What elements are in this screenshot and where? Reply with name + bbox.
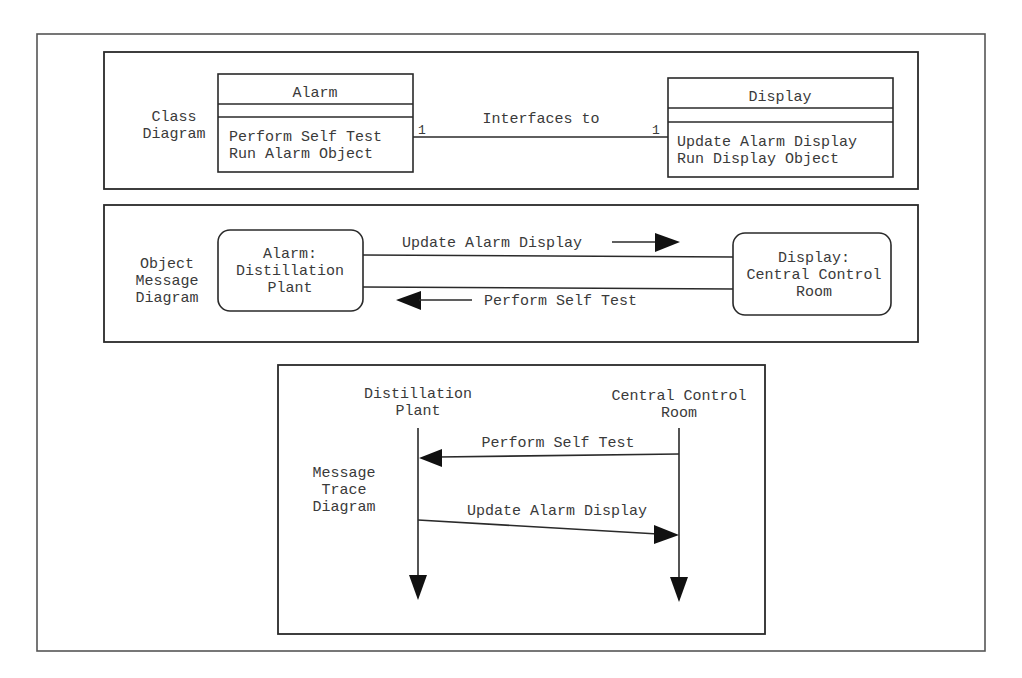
lifeline-header-control-room-line-1: Central Control: [611, 388, 746, 405]
object-box-alarm-line-2: Distillation: [236, 263, 344, 280]
trace-message-label: Update Alarm Display: [467, 503, 647, 520]
object-box-display-line-3: Room: [796, 284, 832, 301]
class-box-display: Display Update Alarm Display Run Display…: [668, 78, 893, 177]
object-message-label-line-3: Diagram: [135, 290, 198, 307]
object-box-display-line-2: Central Control: [746, 267, 881, 284]
class-operation: Run Alarm Object: [229, 146, 373, 163]
object-message-label-line-1: Object: [140, 256, 194, 273]
trace-message-label: Perform Self Test: [481, 435, 634, 452]
message-trace-diagram-panel: Distillation Plant Central Control Room …: [278, 365, 765, 634]
object-message-label: Update Alarm Display: [402, 235, 582, 252]
object-box-alarm-line-1: Alarm:: [263, 246, 317, 263]
object-box-alarm-line-3: Plant: [267, 280, 312, 297]
object-box-alarm: Alarm: Distillation Plant: [218, 230, 363, 311]
object-box-display: Display: Central Control Room: [733, 233, 891, 315]
diagram-canvas: Class Diagram Alarm Perform Self Test Ru…: [0, 0, 1022, 678]
class-diagram-label-line-2: Diagram: [142, 126, 205, 143]
class-operation: Update Alarm Display: [677, 134, 857, 151]
message-trace-label-line-1: Message: [312, 465, 375, 482]
object-message-label-line-2: Message: [135, 273, 198, 290]
class-name-alarm: Alarm: [292, 85, 337, 102]
class-diagram-panel: Class Diagram Alarm Perform Self Test Ru…: [104, 52, 918, 189]
multiplicity-left: 1: [418, 123, 426, 138]
class-name-display: Display: [748, 89, 811, 106]
object-box-display-line-1: Display:: [778, 250, 850, 267]
multiplicity-right: 1: [652, 123, 660, 138]
message-trace-label-line-2: Trace: [321, 482, 366, 499]
lifeline-header-distillation-line-1: Distillation: [364, 386, 472, 403]
class-box-alarm: Alarm Perform Self Test Run Alarm Object: [218, 74, 413, 172]
message-trace-label-line-3: Diagram: [312, 499, 375, 516]
association-label: Interfaces to: [482, 111, 599, 128]
object-message-label: Perform Self Test: [484, 293, 637, 310]
object-message-diagram-panel: Object Message Diagram Alarm: Distillati…: [104, 205, 918, 342]
lifeline-header-control-room-line-2: Room: [661, 405, 697, 422]
class-diagram-label-line-1: Class: [151, 109, 196, 126]
class-operation: Perform Self Test: [229, 129, 382, 146]
lifeline-header-distillation-line-2: Plant: [395, 403, 440, 420]
class-operation: Run Display Object: [677, 151, 839, 168]
